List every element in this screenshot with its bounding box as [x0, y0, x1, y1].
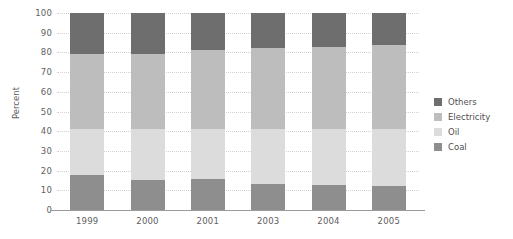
bar-segment-2001-oil: [191, 129, 225, 179]
x-tick-label-2003: 2003: [238, 216, 298, 226]
legend-item-oil[interactable]: Oil: [434, 124, 490, 139]
x-tick-label-2001: 2001: [178, 216, 238, 226]
legend-swatch-electricity-icon: [434, 113, 442, 121]
gridline-30: [57, 151, 419, 153]
y-tick-label-30: 30: [41, 146, 52, 156]
legend-item-electricity[interactable]: Electricity: [434, 109, 490, 124]
bar-segment-2005-others: [372, 13, 406, 45]
x-tick-label-2000: 2000: [118, 216, 178, 226]
y-tick-label-60: 60: [41, 87, 52, 97]
bar-segment-2000-oil: [131, 129, 165, 180]
gridline-10: [57, 190, 419, 192]
legend-label-oil: Oil: [448, 127, 459, 137]
bar-segment-2001-others: [191, 13, 225, 50]
bar-2000: [131, 13, 165, 210]
bar-segment-2001-coal: [191, 179, 225, 210]
bar-segment-2003-electricity: [251, 48, 285, 129]
x-tick-label-1999: 1999: [57, 216, 117, 226]
bar-segment-1999-others: [70, 13, 104, 54]
y-tick-label-40: 40: [41, 126, 52, 136]
y-tick-label-100: 100: [35, 8, 52, 18]
legend-swatch-others-icon: [434, 98, 442, 106]
y-tick-label-50: 50: [41, 107, 52, 117]
gridline-60: [57, 92, 419, 94]
gridline-90: [57, 33, 419, 35]
bar-1999: [70, 13, 104, 210]
bar-2004: [312, 13, 346, 210]
gridline-20: [57, 171, 419, 173]
plot-area: [57, 13, 419, 210]
bar-segment-2000-others: [131, 13, 165, 54]
legend-label-coal: Coal: [448, 142, 467, 152]
legend: OthersElectricityOilCoal: [434, 94, 490, 154]
legend-swatch-coal-icon: [434, 143, 442, 151]
legend-swatch-oil-icon: [434, 128, 442, 136]
y-tick-label-10: 10: [41, 185, 52, 195]
gridline-70: [57, 72, 419, 74]
x-tick-label-2005: 2005: [359, 216, 419, 226]
y-tick-label-70: 70: [41, 67, 52, 77]
bar-2001: [191, 13, 225, 210]
y-tick-label-80: 80: [41, 47, 52, 57]
legend-item-coal[interactable]: Coal: [434, 139, 490, 154]
bar-segment-2005-coal: [372, 186, 406, 210]
stacked-bar-chart: 1009080706050403020100 Percent 199920002…: [0, 0, 513, 239]
bar-segment-2005-oil: [372, 129, 406, 186]
y-tick-label-20: 20: [41, 166, 52, 176]
bar-segment-2003-coal: [251, 184, 285, 210]
bar-segment-2000-coal: [131, 180, 165, 210]
y-axis-title: Percent: [11, 73, 21, 133]
bar-segment-2004-others: [312, 13, 346, 46]
gridline-50: [57, 112, 419, 114]
y-tick-label-90: 90: [41, 28, 52, 38]
bar-segment-2004-electricity: [312, 47, 346, 130]
x-tick-label-2004: 2004: [299, 216, 359, 226]
bar-segment-1999-electricity: [70, 54, 104, 129]
gridline-40: [57, 131, 419, 133]
legend-item-others[interactable]: Others: [434, 94, 490, 109]
bar-segment-2003-oil: [251, 129, 285, 184]
gridline-80: [57, 52, 419, 54]
bar-segment-2004-oil: [312, 129, 346, 185]
bar-segment-2004-coal: [312, 185, 346, 210]
legend-label-electricity: Electricity: [448, 112, 490, 122]
bar-segment-1999-oil: [70, 129, 104, 174]
bar-2005: [372, 13, 406, 210]
bar-segment-1999-coal: [70, 175, 104, 210]
bar-segment-2005-electricity: [372, 45, 406, 130]
x-axis-line: [50, 210, 425, 211]
bar-segment-2003-others: [251, 13, 285, 48]
bar-segment-2001-electricity: [191, 50, 225, 129]
bar-segment-2000-electricity: [131, 54, 165, 129]
bar-2003: [251, 13, 285, 210]
y-axis: 1009080706050403020100: [0, 13, 52, 210]
gridline-100: [57, 13, 419, 15]
legend-label-others: Others: [448, 97, 477, 107]
